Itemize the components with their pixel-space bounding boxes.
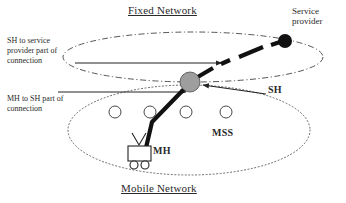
mss-node-2 (144, 106, 156, 118)
network-diagram: Fixed Network Mobile Network Service pro… (0, 0, 346, 203)
mh-label: MH (153, 145, 171, 156)
mobile-host-body (128, 146, 151, 161)
mobile-host-antenna-icon (132, 133, 146, 145)
mh-to-sh-thick-segment (145, 86, 187, 152)
service-provider-node (278, 34, 292, 48)
sh-label: SH (268, 84, 282, 95)
service-provider-label: Service provider (292, 6, 323, 27)
mh-to-sh-label: MH to SH part of connection (7, 94, 63, 114)
sh-node (180, 72, 200, 92)
mss-node-3 (180, 106, 192, 118)
mss-label: MSS (212, 127, 233, 138)
sh-to-service-provider-label: SH to service provider part of connectio… (7, 36, 57, 67)
mobile-network-boundary (68, 85, 310, 175)
mss-node-4 (220, 106, 232, 118)
mobile-host-wheel-left (130, 161, 138, 169)
mobile-network-title: Mobile Network (121, 182, 197, 194)
sh-callout-arrow (203, 85, 266, 94)
mobile-host-wheel-right (141, 161, 149, 169)
mss-node-1 (109, 106, 121, 118)
thick-dash-segment-2 (221, 60, 230, 64)
thick-dash-segment-3 (239, 47, 263, 57)
fixed-network-title: Fixed Network (128, 4, 197, 16)
